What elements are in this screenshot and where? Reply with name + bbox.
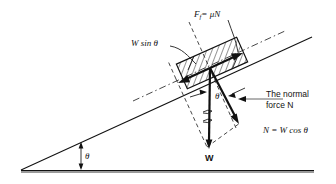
block-angle-label: θ	[215, 91, 220, 101]
base-angle-label: θ	[85, 151, 90, 161]
base-angle-indicator	[79, 142, 84, 170]
normal-equation-label: N = W cos θ	[262, 125, 309, 135]
ground-line	[21, 171, 314, 173]
normal-note-line2: force N	[266, 100, 293, 110]
friction-force-label: Ff= μN	[193, 9, 221, 20]
normal-note-line1: The normal	[266, 89, 309, 99]
component-tick-marks	[203, 110, 212, 122]
physics-diagram-inclined-plane: θ	[0, 0, 336, 184]
diagram-canvas: θ	[0, 0, 336, 184]
weight-vector-label: W	[205, 153, 214, 163]
weight-component-label: W sin θ	[131, 38, 159, 48]
